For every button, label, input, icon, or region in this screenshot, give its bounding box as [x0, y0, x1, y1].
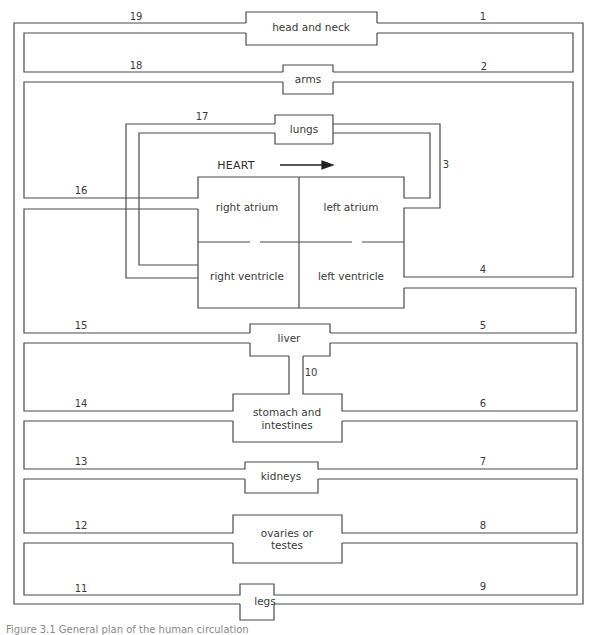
label-stomach-line2: intestines: [261, 419, 312, 431]
gonad-loop: [24, 479, 577, 533]
label-gonads-line2: testes: [271, 539, 303, 551]
label-lungs: lungs: [290, 123, 318, 135]
gut-loop: [24, 343, 577, 411]
vessel-number-6: 6: [480, 398, 486, 409]
vessel-number-18: 18: [130, 60, 143, 71]
label-right-atrium: right atrium: [216, 201, 279, 213]
vessel-number-1: 1: [480, 11, 486, 22]
label-legs: legs: [254, 595, 276, 607]
outer-circuit-line: [14, 23, 583, 604]
vessel-number-9: 9: [480, 581, 486, 592]
vessel-number-17: 17: [196, 111, 209, 122]
heart-title: HEART: [217, 159, 254, 172]
vessel-number-15: 15: [75, 320, 88, 331]
vessel-number-3: 3: [443, 159, 449, 170]
head-loop-inner: [24, 33, 573, 72]
vessel-number-13: 13: [75, 456, 88, 467]
vessel-number-16: 16: [75, 185, 88, 196]
flow-arrow-head: [322, 161, 333, 169]
vessel-number-14: 14: [75, 398, 88, 409]
label-stomach-line1: stomach and: [253, 406, 321, 418]
vessel-number-12: 12: [75, 520, 88, 531]
vessel-number-4: 4: [480, 264, 486, 275]
heart-outline: [198, 209, 404, 308]
label-left-atrium: left atrium: [323, 201, 378, 213]
label-head-and-neck: head and neck: [272, 21, 350, 33]
label-gonads-line1: ovaries or: [261, 527, 313, 539]
vessel-number-10: 10: [305, 367, 318, 378]
label-kidneys: kidneys: [261, 470, 301, 482]
figure-caption: Figure 3.1 General plan of the human cir…: [6, 624, 249, 635]
trunk-loop: [24, 209, 576, 333]
label-left-ventricle: left ventricle: [318, 270, 384, 282]
label-liver: liver: [278, 332, 301, 344]
vessel-number-5: 5: [480, 320, 486, 331]
vessel-number-8: 8: [480, 520, 486, 531]
vessel-number-19: 19: [130, 11, 143, 22]
label-arms: arms: [295, 73, 321, 85]
label-right-ventricle: right ventricle: [210, 270, 284, 282]
vessel-number-7: 7: [480, 456, 486, 467]
vessel-number-11: 11: [75, 583, 88, 594]
vessel-number-2: 2: [481, 61, 487, 72]
